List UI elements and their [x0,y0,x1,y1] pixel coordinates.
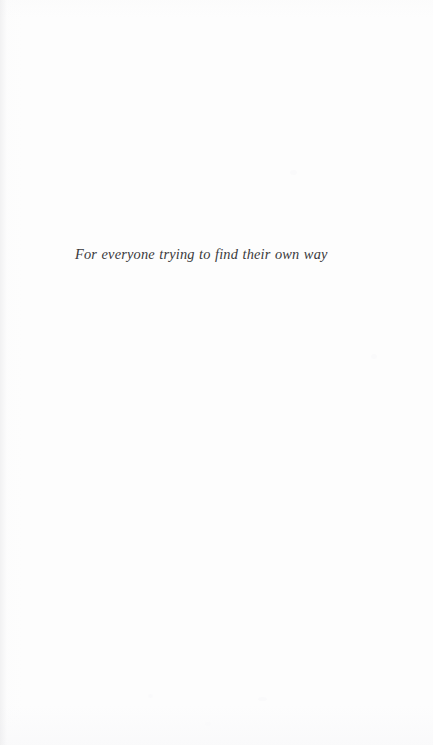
dedication-text: For everyone trying to find their own wa… [75,245,365,264]
dedication-text-block: For everyone trying to find their own wa… [0,0,433,745]
dedication-page: For everyone trying to find their own wa… [0,0,433,745]
